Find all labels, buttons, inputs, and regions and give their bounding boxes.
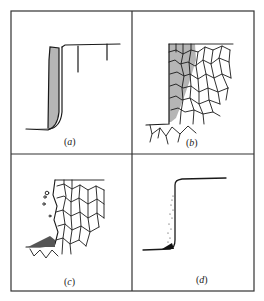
panel-c: (c) xyxy=(26,180,104,288)
four-panel-figure: (a) (b) xyxy=(0,0,264,301)
panel-c-label: (c) xyxy=(64,276,75,288)
scattered-dots xyxy=(167,195,173,242)
panel-a: (a) xyxy=(26,44,120,148)
panel-d-label: (d) xyxy=(196,274,208,286)
panel-a-label: (a) xyxy=(64,136,76,148)
panel-b: (b) xyxy=(146,44,233,149)
panel-b-label: (b) xyxy=(186,137,198,149)
panel-d: (d) xyxy=(143,178,226,286)
